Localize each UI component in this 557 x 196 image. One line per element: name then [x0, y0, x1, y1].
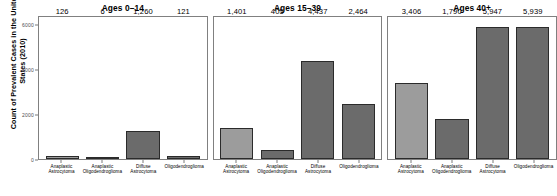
- plot-area: 3,4061,7905,9475,939: [387, 16, 557, 160]
- x-tick: Oligodendroglioma: [164, 160, 205, 196]
- bar-slot: 6: [82, 17, 122, 159]
- bar[interactable]: 1,401: [220, 128, 253, 159]
- bar-group: 1,4014054,4372,464: [214, 17, 382, 159]
- x-tick-label: Oligodendroglioma: [338, 164, 379, 169]
- bar-value-label: 2,464: [348, 7, 368, 16]
- x-tick-mark: [410, 160, 411, 163]
- x-tick-label-line: Astrocytoma: [472, 169, 513, 174]
- bar[interactable]: 5,939: [516, 27, 549, 159]
- x-tick-label: AnaplasticAstrocytoma: [390, 164, 431, 175]
- x-tick-label-line: Oligodendroglioma: [338, 164, 379, 169]
- bar-value-label: 405: [271, 7, 284, 16]
- x-tick-label: AnaplasticAstrocytoma: [216, 164, 257, 175]
- y-tick-label: 2000: [22, 112, 34, 118]
- x-tick-label-line: Astrocytoma: [41, 169, 82, 174]
- bar-slot: 3,406: [391, 17, 431, 159]
- bar[interactable]: 121: [167, 156, 200, 159]
- bar[interactable]: 3,406: [395, 83, 428, 159]
- plot-area: 12661,260121: [38, 16, 208, 160]
- x-tick-label: DiffuseAstrocytoma: [123, 164, 164, 175]
- x-tick-label-line: Astrocytoma: [298, 169, 339, 174]
- bar-slot: 126: [42, 17, 82, 159]
- facet-bar-chart: Count of Prevalent Cases in the United S…: [0, 0, 557, 196]
- x-axis: AnaplasticAstrocytomaAnaplasticOligodend…: [387, 160, 557, 196]
- x-tick: DiffuseAstrocytoma: [472, 160, 513, 196]
- x-tick-label: AnaplasticAstrocytoma: [41, 164, 82, 175]
- panel-row: Ages 0–1412661,260121AnaplasticAstrocyto…: [38, 0, 557, 196]
- x-tick-label-line: Oligodendroglioma: [164, 164, 205, 169]
- bar-slot: 1,401: [217, 17, 257, 159]
- x-tick: DiffuseAstrocytoma: [123, 160, 164, 196]
- x-tick-label-line: Oligodendroglioma: [431, 169, 472, 174]
- y-tick-label: 6000: [22, 22, 34, 28]
- bar[interactable]: 2,464: [342, 104, 375, 159]
- facet-panel: Ages 15–391,4014054,4372,464AnaplasticAs…: [213, 0, 383, 196]
- bar-slot: 121: [163, 17, 203, 159]
- bar-value-label: 3,406: [402, 7, 422, 16]
- x-tick-mark: [492, 160, 493, 163]
- y-tick-label: 4000: [22, 67, 34, 73]
- bar[interactable]: 1,260: [126, 131, 159, 159]
- bar-group: 3,4061,7905,9475,939: [388, 17, 556, 159]
- bar-value-label: 1,401: [227, 7, 247, 16]
- x-tick-mark: [358, 160, 359, 163]
- bar-value-label: 5,947: [483, 7, 503, 16]
- x-tick-mark: [451, 160, 452, 163]
- x-tick: AnaplasticOligodendroglioma: [82, 160, 123, 196]
- x-tick-label-line: Astrocytoma: [390, 169, 431, 174]
- bar-value-label: 1,260: [133, 7, 153, 16]
- bar-value-label: 5,939: [523, 7, 543, 16]
- x-tick-mark: [317, 160, 318, 163]
- x-tick-label-line: Oligodendroglioma: [82, 169, 123, 174]
- x-tick-label: Oligodendroglioma: [513, 164, 554, 169]
- bar[interactable]: 5,947: [476, 27, 509, 159]
- y-axis: 0200040006000: [0, 0, 38, 196]
- x-tick: DiffuseAstrocytoma: [298, 160, 339, 196]
- x-tick-mark: [143, 160, 144, 163]
- x-tick-label-line: Oligodendroglioma: [513, 164, 554, 169]
- bar-value-label: 1,790: [442, 7, 462, 16]
- facet-panel: Ages 0–1412661,260121AnaplasticAstrocyto…: [38, 0, 208, 196]
- x-tick-mark: [277, 160, 278, 163]
- x-tick-label-line: Astrocytoma: [123, 169, 164, 174]
- bar-slot: 1,790: [432, 17, 472, 159]
- bar[interactable]: 6: [86, 157, 119, 159]
- bar[interactable]: 1,790: [435, 119, 468, 159]
- x-tick: Oligodendroglioma: [513, 160, 554, 196]
- bar-group: 12661,260121: [39, 17, 207, 159]
- x-tick: AnaplasticAstrocytoma: [390, 160, 431, 196]
- bar-value-label: 4,437: [308, 7, 328, 16]
- facet-panel: Ages 40+3,4061,7905,9475,939AnaplasticAs…: [387, 0, 557, 196]
- bar[interactable]: 126: [46, 156, 79, 159]
- x-tick-label: AnaplasticOligodendroglioma: [82, 164, 123, 175]
- x-tick-label: Oligodendroglioma: [164, 164, 205, 169]
- x-tick: AnaplasticAstrocytoma: [41, 160, 82, 196]
- bar-slot: 1,260: [123, 17, 163, 159]
- x-tick-mark: [61, 160, 62, 163]
- x-tick-label: DiffuseAstrocytoma: [472, 164, 513, 175]
- bar-slot: 4,437: [298, 17, 338, 159]
- bar[interactable]: 405: [261, 150, 294, 159]
- plot-area: 1,4014054,4372,464: [213, 16, 383, 160]
- x-tick: AnaplasticOligodendroglioma: [257, 160, 298, 196]
- x-tick-mark: [184, 160, 185, 163]
- x-tick-label: DiffuseAstrocytoma: [298, 164, 339, 175]
- x-tick-label: AnaplasticOligodendroglioma: [257, 164, 298, 175]
- y-tick-label: 0: [31, 157, 34, 163]
- x-tick-label-line: Oligodendroglioma: [257, 169, 298, 174]
- bar-slot: 405: [257, 17, 297, 159]
- bar-value-label: 126: [56, 7, 69, 16]
- bar-value-label: 121: [177, 7, 190, 16]
- x-tick: Oligodendroglioma: [338, 160, 379, 196]
- x-tick-mark: [533, 160, 534, 163]
- x-tick: AnaplasticAstrocytoma: [216, 160, 257, 196]
- bar-slot: 5,947: [472, 17, 512, 159]
- x-axis: AnaplasticAstrocytomaAnaplasticOligodend…: [38, 160, 208, 196]
- x-tick-mark: [102, 160, 103, 163]
- bar-slot: 5,939: [513, 17, 553, 159]
- x-tick-label: AnaplasticOligodendroglioma: [431, 164, 472, 175]
- x-tick-mark: [236, 160, 237, 163]
- x-tick: AnaplasticOligodendroglioma: [431, 160, 472, 196]
- bar[interactable]: 4,437: [301, 61, 334, 159]
- bar-slot: 2,464: [338, 17, 378, 159]
